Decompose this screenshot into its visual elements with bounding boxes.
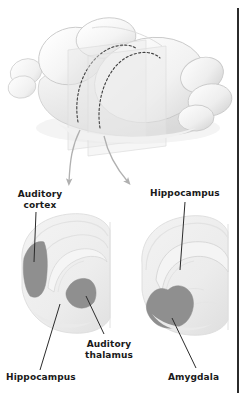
amygdala-highlight [146, 286, 193, 328]
rodent-brain-3d [6, 14, 234, 156]
brain-anatomy-figure: Auditory cortex Hippocampus Hippocampus … [0, 0, 246, 401]
label-amygdala: Amygdala [168, 372, 228, 383]
label-auditory-cortex: Auditory cortex [12, 189, 68, 211]
right-coronal-section [142, 216, 228, 336]
label-hippocampus-left: Hippocampus [6, 372, 82, 383]
label-hippocampus-right: Hippocampus [150, 188, 224, 199]
figure-edge-rule [237, 8, 239, 393]
label-auditory-thalamus: Auditory thalamus [78, 339, 140, 361]
